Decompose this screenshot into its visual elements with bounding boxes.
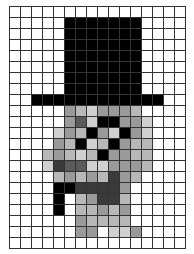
grid-cell[interactable] xyxy=(98,84,109,95)
grid-cell[interactable] xyxy=(98,117,109,128)
grid-cell[interactable] xyxy=(120,216,131,227)
grid-cell[interactable] xyxy=(54,128,65,139)
grid-cell[interactable] xyxy=(54,238,65,249)
grid-cell[interactable] xyxy=(87,117,98,128)
grid-cell[interactable] xyxy=(10,62,21,73)
grid-cell[interactable] xyxy=(109,84,120,95)
grid-cell[interactable] xyxy=(109,7,120,18)
grid-cell[interactable] xyxy=(175,161,186,172)
grid-cell[interactable] xyxy=(10,227,21,238)
grid-cell[interactable] xyxy=(142,128,153,139)
grid-cell[interactable] xyxy=(54,216,65,227)
grid-cell[interactable] xyxy=(98,183,109,194)
grid-cell[interactable] xyxy=(175,29,186,40)
grid-cell[interactable] xyxy=(120,40,131,51)
grid-cell[interactable] xyxy=(164,238,175,249)
grid-cell[interactable] xyxy=(21,194,32,205)
grid-cell[interactable] xyxy=(87,172,98,183)
grid-cell[interactable] xyxy=(98,194,109,205)
grid-cell[interactable] xyxy=(76,216,87,227)
grid-cell[interactable] xyxy=(175,84,186,95)
grid-cell[interactable] xyxy=(65,73,76,84)
grid-cell[interactable] xyxy=(98,73,109,84)
grid-cell[interactable] xyxy=(109,194,120,205)
grid-cell[interactable] xyxy=(153,95,164,106)
grid-cell[interactable] xyxy=(153,161,164,172)
grid-cell[interactable] xyxy=(175,128,186,139)
grid-cell[interactable] xyxy=(164,40,175,51)
grid-cell[interactable] xyxy=(153,40,164,51)
grid-cell[interactable] xyxy=(43,84,54,95)
grid-cell[interactable] xyxy=(32,18,43,29)
grid-cell[interactable] xyxy=(98,40,109,51)
grid-cell[interactable] xyxy=(21,128,32,139)
grid-cell[interactable] xyxy=(142,84,153,95)
grid-cell[interactable] xyxy=(21,95,32,106)
grid-cell[interactable] xyxy=(54,40,65,51)
grid-cell[interactable] xyxy=(32,216,43,227)
grid-cell[interactable] xyxy=(54,172,65,183)
grid-cell[interactable] xyxy=(54,194,65,205)
grid-cell[interactable] xyxy=(120,172,131,183)
grid-cell[interactable] xyxy=(109,40,120,51)
grid-cell[interactable] xyxy=(164,183,175,194)
grid-cell[interactable] xyxy=(54,62,65,73)
grid-cell[interactable] xyxy=(43,7,54,18)
grid-cell[interactable] xyxy=(21,84,32,95)
grid-cell[interactable] xyxy=(98,238,109,249)
grid-cell[interactable] xyxy=(153,117,164,128)
grid-cell[interactable] xyxy=(43,95,54,106)
grid-cell[interactable] xyxy=(76,183,87,194)
grid-cell[interactable] xyxy=(32,106,43,117)
grid-cell[interactable] xyxy=(109,73,120,84)
grid-cell[interactable] xyxy=(76,7,87,18)
grid-cell[interactable] xyxy=(142,161,153,172)
grid-cell[interactable] xyxy=(32,84,43,95)
grid-cell[interactable] xyxy=(142,172,153,183)
grid-cell[interactable] xyxy=(65,216,76,227)
grid-cell[interactable] xyxy=(54,7,65,18)
grid-cell[interactable] xyxy=(10,95,21,106)
grid-cell[interactable] xyxy=(120,29,131,40)
grid-cell[interactable] xyxy=(21,18,32,29)
grid-cell[interactable] xyxy=(87,216,98,227)
grid-cell[interactable] xyxy=(164,95,175,106)
grid-cell[interactable] xyxy=(65,18,76,29)
grid-cell[interactable] xyxy=(10,139,21,150)
grid-cell[interactable] xyxy=(120,183,131,194)
grid-cell[interactable] xyxy=(87,128,98,139)
grid-cell[interactable] xyxy=(164,29,175,40)
grid-cell[interactable] xyxy=(175,227,186,238)
grid-cell[interactable] xyxy=(164,227,175,238)
grid-cell[interactable] xyxy=(120,238,131,249)
grid-cell[interactable] xyxy=(153,73,164,84)
grid-cell[interactable] xyxy=(175,51,186,62)
grid-cell[interactable] xyxy=(65,150,76,161)
grid-cell[interactable] xyxy=(10,172,21,183)
grid-cell[interactable] xyxy=(43,18,54,29)
grid-cell[interactable] xyxy=(142,7,153,18)
grid-cell[interactable] xyxy=(142,238,153,249)
grid-cell[interactable] xyxy=(98,62,109,73)
grid-cell[interactable] xyxy=(120,51,131,62)
grid-cell[interactable] xyxy=(32,183,43,194)
grid-cell[interactable] xyxy=(142,150,153,161)
grid-cell[interactable] xyxy=(21,62,32,73)
grid-cell[interactable] xyxy=(43,106,54,117)
grid-cell[interactable] xyxy=(142,18,153,29)
grid-cell[interactable] xyxy=(43,117,54,128)
grid-cell[interactable] xyxy=(87,62,98,73)
grid-cell[interactable] xyxy=(98,172,109,183)
grid-cell[interactable] xyxy=(87,95,98,106)
grid-cell[interactable] xyxy=(76,73,87,84)
grid-cell[interactable] xyxy=(43,183,54,194)
grid-cell[interactable] xyxy=(120,128,131,139)
grid-cell[interactable] xyxy=(109,128,120,139)
grid-cell[interactable] xyxy=(54,161,65,172)
grid-cell[interactable] xyxy=(43,205,54,216)
grid-cell[interactable] xyxy=(76,128,87,139)
grid-cell[interactable] xyxy=(109,29,120,40)
grid-cell[interactable] xyxy=(131,227,142,238)
grid-cell[interactable] xyxy=(120,227,131,238)
grid-cell[interactable] xyxy=(142,40,153,51)
